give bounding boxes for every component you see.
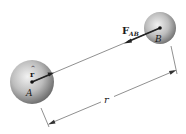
- center-dot-b: [158, 26, 162, 30]
- two-body-force-diagram: FAB r ^ A B r: [0, 0, 186, 134]
- distance-label: r: [104, 94, 110, 105]
- unit-vector-hat: ^: [31, 64, 36, 71]
- extension-line-a: [41, 108, 49, 127]
- body-a-label: A: [25, 88, 33, 98]
- force-label: FAB: [122, 25, 139, 37]
- extension-line-b: [171, 46, 177, 74]
- center-dot-a: [30, 80, 34, 84]
- distance-dimension-line: [48, 70, 177, 125]
- body-b-label: B: [154, 34, 162, 44]
